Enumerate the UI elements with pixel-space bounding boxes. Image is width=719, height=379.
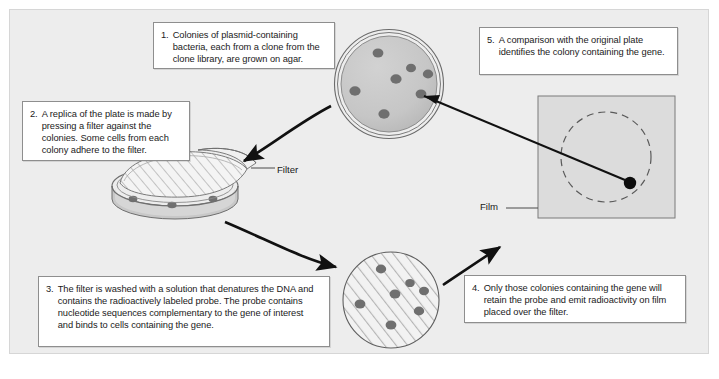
callout-step-5-number: 5.	[487, 34, 499, 46]
callout-step-2-number: 2.	[30, 108, 42, 120]
callout-step-1: 1. Colonies of plasmid-containing bacter…	[153, 22, 335, 69]
diagram-canvas: 1. Colonies of plasmid-containing bacter…	[0, 0, 719, 379]
callout-step-1-text: Colonies of plasmid-containing bacteria,…	[173, 29, 326, 65]
callout-step-4: 4. Only those colonies containing the ge…	[464, 275, 686, 323]
callout-step-4-text: Only those colonies containing the gene …	[484, 282, 677, 318]
film-label: Film	[480, 201, 498, 212]
callout-step-3-text: The filter is washed with a solution tha…	[58, 283, 321, 331]
callout-step-5-text: A comparison with the original plate ide…	[499, 34, 669, 58]
filter-label: Filter	[277, 164, 298, 175]
callout-step-2-text: A replica of the plate is made by pressi…	[42, 108, 181, 156]
callout-step-3: 3. The filter is washed with a solution …	[38, 276, 330, 347]
callout-step-5: 5. A comparison with the original plate …	[479, 27, 678, 75]
callout-step-2: 2. A replica of the plate is made by pre…	[22, 101, 190, 161]
callout-step-3-number: 3.	[46, 283, 58, 295]
callout-step-1-number: 1.	[161, 29, 173, 41]
callout-step-4-number: 4.	[472, 282, 484, 294]
